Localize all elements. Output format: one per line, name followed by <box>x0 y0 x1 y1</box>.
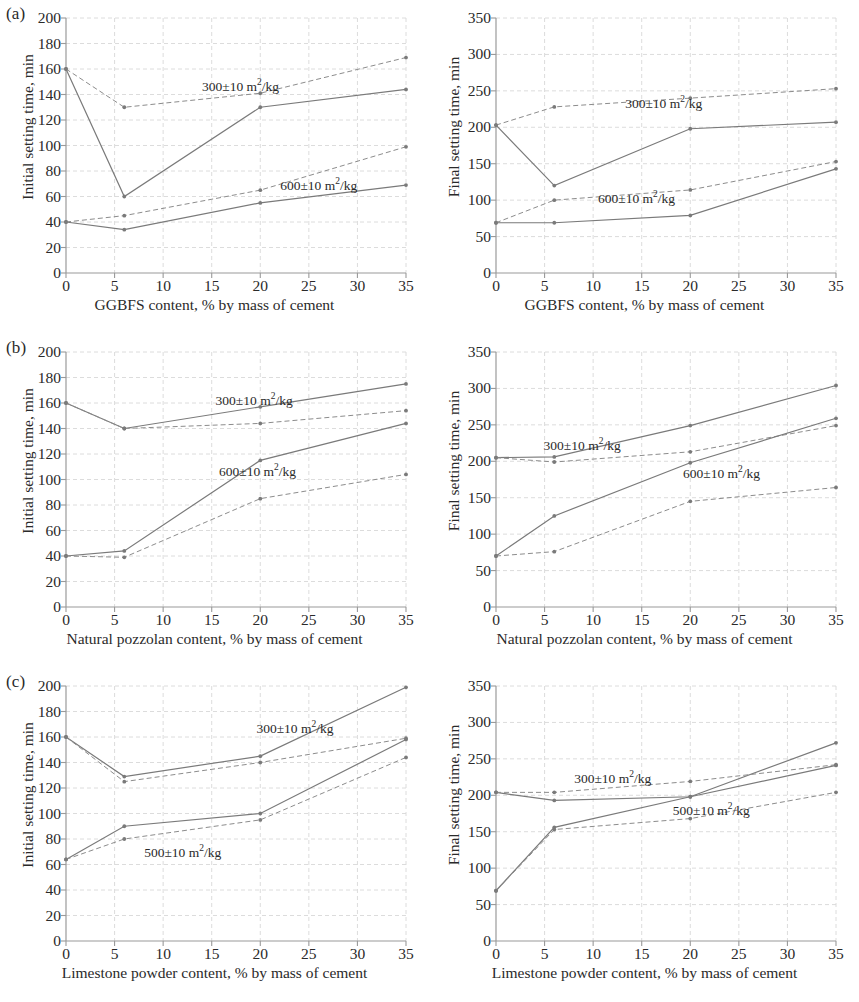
y-axis-tick-label: 160 <box>38 61 61 77</box>
data-point <box>552 790 556 794</box>
series-annotation-s500: 500±10 m2/kg <box>144 844 221 859</box>
x-axis-tick-label: 25 <box>301 612 317 628</box>
y-axis-tick-label: 60 <box>46 523 62 539</box>
panel-c-initial: (c) Initial setting time, min 0204060801… <box>0 668 429 1002</box>
data-point <box>122 427 126 431</box>
data-point <box>404 56 408 60</box>
data-point <box>552 455 556 459</box>
data-point <box>64 858 68 862</box>
data-point <box>122 775 126 779</box>
data-point <box>404 738 408 742</box>
series-annotation-text: 500±10 m <box>673 803 728 818</box>
panel-b-initial: (b) Initial setting time, min 0204060801… <box>0 334 429 668</box>
data-point <box>122 195 126 199</box>
data-point <box>404 756 408 760</box>
x-axis-tick-label: 15 <box>634 278 650 294</box>
series-annotation-text: 600±10 m <box>683 466 738 481</box>
series-annotation-s300: 300±10 m2/kg <box>202 78 279 93</box>
y-axis-tick-label: 300 <box>468 381 491 397</box>
y-axis-label: Initial setting time, min <box>19 361 37 561</box>
x-axis-tick-label: 20 <box>683 946 699 962</box>
data-point <box>834 167 838 171</box>
series-annotation-text: 300±10 m <box>202 78 257 93</box>
data-point <box>834 486 838 490</box>
y-axis-tick-label: 180 <box>38 370 61 386</box>
data-point <box>258 201 262 205</box>
y-axis-tick-label: 250 <box>468 417 491 433</box>
data-point <box>494 123 498 127</box>
y-axis-tick-label: 0 <box>483 265 491 281</box>
plot-area: 05010015020025030035005101520253035300±1… <box>496 18 836 273</box>
x-axis-tick-label: 25 <box>731 612 747 628</box>
data-point <box>552 221 556 225</box>
data-point <box>834 384 838 388</box>
y-axis-tick-label: 50 <box>476 897 492 913</box>
gridlines <box>66 18 406 273</box>
x-axis-tick-label: 0 <box>492 612 500 628</box>
panel-row-b: (b) Initial setting time, min 0204060801… <box>0 334 859 668</box>
y-axis-tick-label: 0 <box>53 265 61 281</box>
x-axis-label: Limestone powder content, % by mass of c… <box>0 964 429 982</box>
data-point <box>122 214 126 218</box>
plot-area: 0204060801001201401601802000510152025303… <box>66 686 406 941</box>
data-point <box>834 764 838 768</box>
y-axis-tick-label: 50 <box>476 563 492 579</box>
panel-c-final: Final setting time, min 0501001502002503… <box>430 668 859 1002</box>
unit-tail: /kg <box>316 721 333 736</box>
x-axis-tick-label: 30 <box>780 946 796 962</box>
x-axis-tick-label: 10 <box>155 278 171 294</box>
x-axis-tick-label: 5 <box>111 612 119 628</box>
data-point <box>64 554 68 558</box>
data-point <box>552 798 556 802</box>
x-axis-label: GGBFS content, % by mass of cement <box>430 296 859 314</box>
y-axis-label: Final setting time, min <box>445 27 463 227</box>
y-axis-tick-label: 0 <box>53 933 61 949</box>
y-axis-label: Final setting time, min <box>445 361 463 561</box>
y-axis-tick-label: 150 <box>468 156 491 172</box>
series-annotation-s600: 600±10 m2/kg <box>219 463 296 478</box>
data-series <box>494 741 838 802</box>
data-point <box>494 889 498 893</box>
data-point <box>258 761 262 765</box>
y-axis-tick-label: 200 <box>38 10 61 26</box>
x-axis-label: Natural pozzolan content, % by mass of c… <box>430 630 859 648</box>
data-point <box>122 549 126 553</box>
x-axis-tick-label: 25 <box>301 946 317 962</box>
x-axis-label: Limestone powder content, % by mass of c… <box>430 964 859 982</box>
y-axis-tick-label: 120 <box>38 780 61 796</box>
y-axis-tick-label: 160 <box>38 395 61 411</box>
x-axis-tick-label: 30 <box>780 278 796 294</box>
series-annotation-text: 300±10 m <box>216 392 271 407</box>
x-axis-tick-label: 30 <box>780 612 796 628</box>
data-series <box>64 422 408 558</box>
y-axis-tick-label: 300 <box>468 47 491 63</box>
data-point <box>258 818 262 822</box>
y-axis-tick-label: 200 <box>468 454 491 470</box>
setting-time-figure: (a) Initial setting time, min 0204060801… <box>0 0 859 1002</box>
x-axis-tick-label: 10 <box>155 946 171 962</box>
y-axis-tick-label: 200 <box>38 344 61 360</box>
data-point <box>122 780 126 784</box>
plot-area: 05010015020025030035005101520253035300±1… <box>496 352 836 607</box>
data-point <box>552 828 556 832</box>
x-axis-tick-label: 0 <box>62 946 70 962</box>
x-axis-tick-label: 5 <box>111 278 119 294</box>
data-point <box>258 812 262 816</box>
series-annotation-text: 600±10 m <box>219 463 274 478</box>
y-axis-tick-label: 100 <box>468 526 491 542</box>
data-point <box>688 780 692 784</box>
axes <box>491 18 836 278</box>
series-annotation-s300: 300±10 m2/kg <box>216 392 293 407</box>
data-point <box>494 221 498 225</box>
unit-tail: /kg <box>204 845 221 860</box>
y-axis-tick-label: 180 <box>38 36 61 52</box>
panel-row-a: (a) Initial setting time, min 0204060801… <box>0 0 859 334</box>
unit-tail: /kg <box>634 771 651 786</box>
y-axis-tick-label: 20 <box>46 240 62 256</box>
panel-a-final: Final setting time, min 0501001502002503… <box>430 0 859 334</box>
data-point <box>834 416 838 420</box>
gridlines <box>496 352 836 607</box>
data-point <box>494 790 498 794</box>
data-point <box>688 214 692 218</box>
y-axis-tick-label: 80 <box>46 163 62 179</box>
